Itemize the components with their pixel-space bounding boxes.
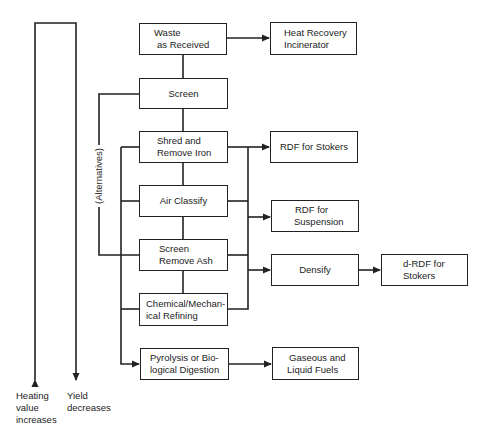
node-screen-remove-ash: Screen Remove Ash <box>139 239 228 271</box>
node-label: Liquid Fuels <box>287 364 338 376</box>
node-waste-as-received: Waste as Received <box>139 23 227 55</box>
node-rdf-for-stokers: RDF for Stokers <box>270 131 358 163</box>
label-line: increases <box>16 414 57 426</box>
node-pyrolysis-biological-digestion: Pyrolysis or Bio- logical Digestion <box>140 348 229 380</box>
node-d-rdf-for-stokers: d-RDF for Stokers <box>381 254 468 286</box>
label-line: Yield <box>67 390 111 402</box>
node-label: Suspension <box>294 216 344 228</box>
node-densify: Densify <box>271 254 359 286</box>
yield-label: Yield decreases <box>67 390 111 414</box>
node-label: Gaseous and <box>287 352 346 364</box>
node-label: ical Refining <box>146 310 198 322</box>
node-label: d-RDF for <box>403 258 445 270</box>
label-line: value <box>16 402 57 414</box>
node-label: Waste <box>154 27 181 39</box>
node-label: Incinerator <box>284 39 329 51</box>
node-chemical-mechanical-refining: Chemical/Mechan- ical Refining <box>139 293 228 326</box>
node-label: logical Digestion <box>150 364 219 376</box>
node-label: Screen <box>159 243 189 255</box>
label-line: Heating <box>16 390 57 402</box>
alternatives-bracket-label: (Alternatives) <box>93 170 105 182</box>
node-label: Remove Iron <box>157 147 211 159</box>
node-heat-recovery-incinerator: Heat Recovery Incinerator <box>270 22 357 55</box>
connector-lines <box>0 0 494 435</box>
node-gaseous-liquid-fuels: Gaseous and Liquid Fuels <box>272 347 359 380</box>
node-label: Densify <box>299 264 331 276</box>
node-label: RDF for Stokers <box>280 141 348 153</box>
node-air-classify: Air Classify <box>139 185 228 217</box>
node-label: Shred and <box>157 135 201 147</box>
node-rdf-for-suspension: RDF for Suspension <box>271 200 359 232</box>
node-label: Chemical/Mechan- <box>146 298 225 310</box>
label-line: decreases <box>67 402 111 414</box>
node-label: Heat Recovery <box>284 27 347 39</box>
alternatives-text: (Alternatives) <box>93 145 105 207</box>
node-label: as Received <box>154 39 209 51</box>
node-screen: Screen <box>139 78 228 109</box>
node-shred-remove-iron: Shred and Remove Iron <box>139 131 228 163</box>
node-label: Stokers <box>403 270 435 282</box>
node-label: Pyrolysis or Bio- <box>150 352 219 364</box>
heating-value-arrow <box>35 23 76 380</box>
node-label: Screen <box>168 88 198 100</box>
node-label: Air Classify <box>160 195 208 207</box>
node-label: Remove Ash <box>159 255 213 267</box>
heating-value-label: Heating value increases <box>16 390 57 426</box>
node-label: RDF for <box>294 204 328 216</box>
